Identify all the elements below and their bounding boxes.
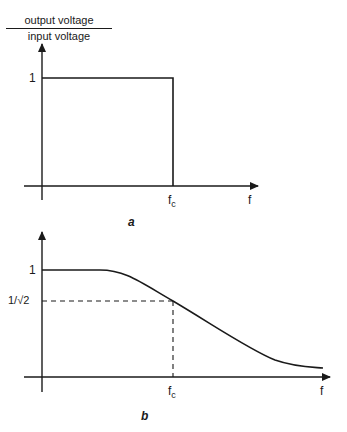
- figure-b-plot: [24, 232, 330, 392]
- figure-a-x-axis-label: f: [248, 194, 251, 206]
- figure-a-y-axis-label: output voltage input voltage: [0, 14, 120, 48]
- figure-b-response-curve: [42, 270, 323, 368]
- y-label-numerator: output voltage: [6, 14, 112, 29]
- y-label-denominator: input voltage: [6, 30, 112, 43]
- figure-a-y-tick-1: 1: [29, 72, 36, 84]
- figure-a-x-tick-fc: fc: [168, 194, 176, 206]
- figure-b-caption: b: [141, 410, 148, 422]
- fc-sub: c: [171, 199, 176, 209]
- figure-a-ideal-response: [42, 78, 173, 186]
- figure-b-x-axis-label: f: [320, 385, 323, 397]
- figure-b-x-tick-fc: fc: [168, 385, 176, 397]
- fc-sub: c: [171, 390, 176, 400]
- filter-response-diagram: [0, 0, 347, 432]
- figure-b-y-tick-1: 1: [29, 264, 36, 276]
- figure-a-caption: a: [128, 216, 135, 228]
- figure-a-plot: [24, 44, 258, 200]
- figure-b-y-tick-half-power: 1/√2: [8, 295, 29, 306]
